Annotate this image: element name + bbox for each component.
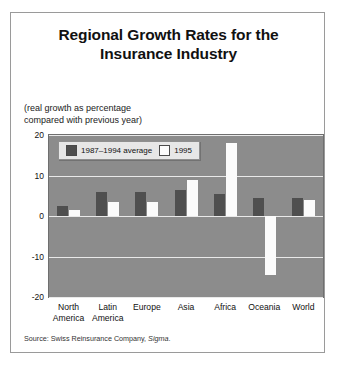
legend-item-1: 1995 [159,145,192,156]
chart-title: Regional Growth Rates for the Insurance … [11,25,326,63]
legend-label-0: 1987–1994 average [81,146,152,155]
bar-oceania-avg [253,198,264,216]
y-tick-label-20: 20 [35,130,44,140]
y-tick-label-10: 10 [35,171,44,181]
bar-asia-1995 [187,180,198,216]
chart-subtitle-line-1: (real growth as percentage [24,103,274,115]
legend-item-0: 1987–1994 average [66,145,152,156]
gridline--20 [49,297,323,298]
x-axis-label-asia: Asia [178,302,195,313]
chart-subtitle: (real growth as percentage compared with… [24,103,274,126]
legend-label-1: 1995 [174,146,192,155]
chart-figure: Regional Growth Rates for the Insurance … [10,12,325,353]
gridline-20 [49,135,323,136]
x-axis-labels: NorthAmericaLatinAmericaEuropeAsiaAfrica… [48,302,324,326]
x-axis-label-africa: Africa [214,302,236,313]
source-note: Source: Swiss Reinsurance Company, Sigma… [24,334,170,343]
x-axis-label-north-america: NorthAmerica [53,302,85,323]
y-tick-label-0: 0 [39,211,44,221]
gridline--10 [49,257,323,258]
bar-north-america-avg [57,206,68,216]
x-axis-label-world: World [292,302,314,313]
bar-europe-avg [135,192,146,216]
legend-swatch-0 [66,145,77,156]
legend-swatch-1 [159,145,170,156]
source-publication: Sigma [148,334,168,343]
gridline-0 [49,216,323,217]
source-prefix: Source: Swiss Reinsurance Company, [24,334,148,343]
bar-europe-1995 [147,202,158,216]
bar-north-america-1995 [69,210,80,216]
chart-legend: 1987–1994 average 1995 [58,141,200,160]
source-suffix: . [168,334,170,343]
bar-world-avg [292,198,303,216]
y-tick-label--10: -10 [32,252,44,262]
chart-title-line-1: Regional Growth Rates for the [11,25,326,44]
bar-asia-avg [175,190,186,216]
x-axis-label-latin-america: LatinAmerica [92,302,124,323]
y-tick-label--20: -20 [32,292,44,302]
bar-latin-america-1995 [108,202,119,216]
bar-world-1995 [304,200,315,216]
bar-latin-america-avg [96,192,107,216]
gridline-10 [49,176,323,177]
x-axis-label-oceania: Oceania [248,302,280,313]
x-axis-label-europe: Europe [133,302,161,313]
plot-area-wrapper: 1987–1994 average 1995 20100-10-20 [48,134,324,300]
chart-subtitle-line-2: compared with previous year) [24,115,274,127]
plot-area: 1987–1994 average 1995 [48,134,324,298]
bar-africa-avg [214,194,225,216]
bar-oceania-1995 [265,216,276,275]
bar-africa-1995 [226,143,237,216]
chart-title-line-2: Insurance Industry [11,44,326,63]
